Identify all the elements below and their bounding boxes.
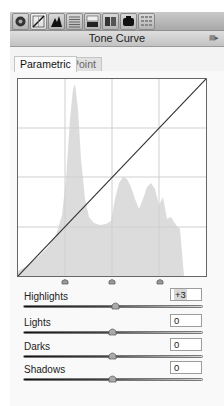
- lens-corrections-button[interactable]: [102, 13, 119, 30]
- slider-label: Lights: [24, 317, 51, 328]
- curve-mode-tabs: Parametric Point: [10, 52, 224, 72]
- highlights-value-input[interactable]: +3: [170, 288, 202, 301]
- highlights-slider-thumb[interactable]: [111, 301, 120, 310]
- curve-canvas: [18, 79, 206, 276]
- effects-icon: [122, 15, 135, 28]
- hsl-icon: [50, 15, 63, 28]
- slider-label: Darks: [24, 341, 50, 352]
- tone-curve-icon: [32, 15, 45, 28]
- tone-curve-graph[interactable]: [17, 78, 207, 277]
- lights-slider-thumb[interactable]: [108, 327, 117, 336]
- darks-value-input[interactable]: 0: [170, 338, 202, 351]
- split-handle-highlights[interactable]: [156, 278, 164, 285]
- detail-button[interactable]: [84, 13, 101, 30]
- tab-parametric[interactable]: Parametric: [14, 56, 77, 72]
- camera-calibration-button[interactable]: [138, 13, 155, 30]
- darks-slider-thumb[interactable]: [108, 351, 117, 360]
- panel-menu-icon[interactable]: ▤▸: [209, 34, 218, 42]
- camera-calibration-icon: [140, 15, 153, 28]
- tone-curve-button[interactable]: [30, 13, 47, 30]
- effects-button[interactable]: [120, 13, 137, 30]
- panel-title: Tone Curve: [10, 32, 224, 44]
- split-handle-shadows[interactable]: [61, 278, 69, 285]
- panel-toolbar: [10, 12, 224, 31]
- split-handle-midtones[interactable]: [108, 278, 116, 285]
- split-toning-button[interactable]: [66, 13, 83, 30]
- lights-value-input[interactable]: 0: [170, 314, 202, 327]
- slider-label: Highlights: [24, 291, 68, 302]
- split-toning-icon: [68, 15, 81, 28]
- shadows-value-input[interactable]: 0: [170, 361, 202, 374]
- basic-panel-icon: [14, 15, 27, 28]
- basic-panel-button[interactable]: [12, 13, 29, 30]
- panel-header[interactable]: Tone Curve ▤▸: [10, 31, 224, 47]
- lens-corrections-icon: [104, 15, 117, 28]
- detail-icon: [86, 15, 99, 28]
- hsl-button[interactable]: [48, 13, 65, 30]
- shadows-slider-thumb[interactable]: [108, 374, 117, 383]
- slider-label: Shadows: [24, 364, 65, 375]
